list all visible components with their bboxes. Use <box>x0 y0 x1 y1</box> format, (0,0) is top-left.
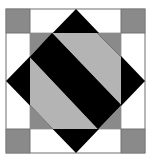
corner-square-bottom-left <box>6 129 30 153</box>
corner-square-top-left <box>6 9 30 33</box>
corner-square-top-right <box>121 9 145 33</box>
quilt-block-diagram <box>0 0 152 164</box>
corner-square-bottom-right <box>121 129 145 153</box>
